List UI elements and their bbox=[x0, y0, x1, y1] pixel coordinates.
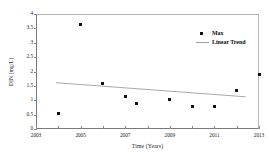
data-point bbox=[79, 23, 82, 26]
legend-marker-icon bbox=[196, 29, 210, 38]
data-point bbox=[135, 102, 138, 105]
y-tick-label: 3.5 bbox=[27, 26, 33, 31]
legend-line-icon bbox=[196, 38, 210, 47]
data-point bbox=[168, 98, 171, 101]
x-tick-label: 2007 bbox=[120, 133, 130, 138]
legend-item-max: Max bbox=[196, 29, 258, 38]
x-tick-label: 2011 bbox=[209, 133, 219, 138]
data-point bbox=[258, 73, 261, 76]
x-tick-label: 2009 bbox=[165, 133, 175, 138]
legend-label-linear-trend: Linear Trend bbox=[212, 39, 245, 45]
y-tick-label: 1.5 bbox=[27, 83, 33, 88]
x-tick-label: 2005 bbox=[75, 133, 85, 138]
y-tick-label: 2.5 bbox=[27, 54, 33, 59]
x-tick-label: 2003 bbox=[31, 133, 41, 138]
data-point bbox=[191, 105, 194, 108]
legend-item-linear-trend: Linear Trend bbox=[196, 38, 258, 47]
data-point bbox=[213, 105, 216, 108]
chart-legend: Max Linear Trend bbox=[196, 29, 258, 47]
data-point bbox=[57, 112, 60, 115]
x-tick-mark bbox=[259, 126, 260, 129]
x-axis-title: Time (Years) bbox=[36, 144, 259, 150]
chart-container: DIN (mg/L) 00.511.522.533.54 20032005200… bbox=[0, 0, 269, 165]
y-tick-label: 0.5 bbox=[27, 112, 33, 117]
y-axis-title: DIN (mg/L) bbox=[9, 37, 15, 107]
x-tick-label: 2013 bbox=[254, 133, 264, 138]
y-tick-mark bbox=[34, 129, 37, 130]
data-point bbox=[124, 95, 127, 98]
data-point bbox=[101, 82, 104, 85]
legend-label-max: Max bbox=[212, 30, 224, 36]
data-point bbox=[235, 89, 238, 92]
